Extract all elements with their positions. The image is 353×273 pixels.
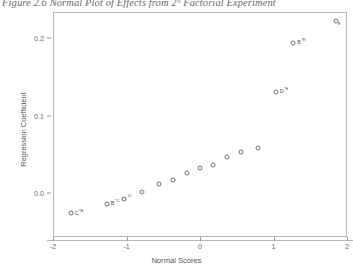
x-tick-mark	[200, 237, 201, 241]
data-point	[170, 178, 175, 183]
data-point-label: C*E	[75, 208, 84, 216]
data-point	[256, 146, 261, 151]
y-tick-label: 0.2	[34, 34, 44, 43]
data-point-label: D	[128, 193, 131, 201]
y-tick-label: 0.1	[34, 111, 44, 120]
y-tick-label: 0.0	[34, 189, 44, 198]
y-tick-mark	[47, 115, 51, 116]
data-point	[139, 189, 144, 194]
x-tick-label: 0	[198, 242, 202, 251]
data-point-label: D*E	[280, 86, 289, 94]
data-point	[156, 182, 161, 187]
data-point-label: E	[338, 21, 341, 29]
data-point	[291, 40, 296, 45]
data-point	[239, 149, 244, 154]
data-point	[122, 196, 127, 201]
data-point	[68, 210, 73, 215]
data-point	[225, 154, 230, 159]
figure-caption: Figure 2.6 Normal Plot of Effects from 2…	[2, 0, 353, 8]
plot-frame	[53, 12, 347, 237]
y-tick-mark	[47, 38, 51, 39]
x-axis-title: Normal Scores	[0, 256, 353, 265]
x-tick-mark	[53, 237, 54, 241]
x-tick-label: 1	[272, 242, 276, 251]
data-point-label: B*C	[111, 198, 120, 206]
x-tick-label: -1	[123, 242, 129, 251]
y-tick-mark	[47, 193, 51, 194]
x-tick-mark	[347, 237, 348, 241]
data-point	[273, 89, 278, 94]
x-tick-mark	[127, 237, 128, 241]
x-tick-label: 2	[345, 242, 349, 251]
data-point	[104, 202, 109, 207]
data-point-label: B*E	[297, 37, 306, 45]
x-tick-mark	[274, 237, 275, 241]
data-point	[198, 166, 203, 171]
x-tick-label: -2	[50, 242, 56, 251]
data-point	[184, 171, 189, 176]
y-axis-title: Regression Coefficient	[19, 55, 28, 205]
data-point	[211, 163, 216, 168]
